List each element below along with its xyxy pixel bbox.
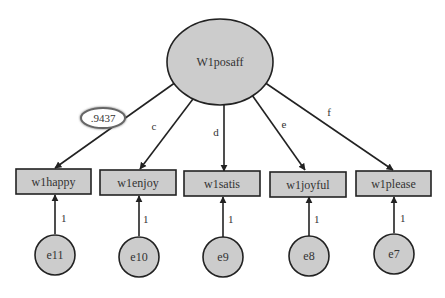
error-path-label-e11: 1 <box>61 212 67 224</box>
error-label: e7 <box>388 247 399 261</box>
error-node-e9[interactable]: e9 <box>203 237 243 277</box>
error-label: e10 <box>130 250 147 264</box>
error-path-label-e9: 1 <box>228 213 234 225</box>
indicator-label: w1please <box>371 177 416 191</box>
loading-label-w1joyful: e <box>282 118 287 130</box>
indicator-label: w1enjoy <box>117 176 158 190</box>
error-label: e11 <box>47 248 64 262</box>
error-node-e8[interactable]: e8 <box>289 236 329 276</box>
loading-label-w1please: f <box>327 106 331 118</box>
error-path-label-e8: 1 <box>314 213 320 225</box>
error-label: e9 <box>217 250 228 264</box>
path-w1posaff-w1enjoy[interactable] <box>140 95 196 169</box>
error-path-label-e10: 1 <box>143 213 149 225</box>
loading-label-w1happy-highlight[interactable]: .9437 <box>81 108 125 128</box>
sem-diagram: W1posaff .9437 c d e f w1happy w1enjoy w… <box>0 0 445 298</box>
latent-node-w1posaff[interactable]: W1posaff <box>167 19 273 105</box>
error-node-e10[interactable]: e10 <box>119 237 159 277</box>
loading-label-w1satis: d <box>213 126 219 138</box>
error-paths <box>55 195 394 237</box>
loading-label-w1happy: .9437 <box>91 112 116 124</box>
error-label: e8 <box>303 249 314 263</box>
indicator-label: w1joyful <box>286 178 330 192</box>
indicator-node-w1please[interactable]: w1please <box>356 171 431 196</box>
error-node-e7[interactable]: e7 <box>374 234 414 274</box>
indicator-node-w1joyful[interactable]: w1joyful <box>270 172 346 197</box>
latent-label: W1posaff <box>196 55 243 69</box>
indicator-node-w1satis[interactable]: w1satis <box>184 171 260 196</box>
error-path-label-e7: 1 <box>400 212 406 224</box>
indicator-label: w1satis <box>204 177 240 191</box>
indicator-label: w1happy <box>32 175 76 189</box>
indicator-node-w1happy[interactable]: w1happy <box>16 169 91 194</box>
loading-label-w1enjoy: c <box>152 120 157 132</box>
error-node-e11[interactable]: e11 <box>35 235 75 275</box>
path-w1posaff-w1joyful[interactable] <box>252 95 305 170</box>
indicator-node-w1enjoy[interactable]: w1enjoy <box>100 170 176 195</box>
